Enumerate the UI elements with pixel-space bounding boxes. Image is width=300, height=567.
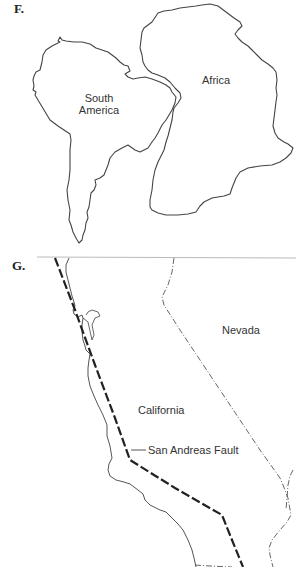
- africa-label: Africa: [202, 74, 230, 86]
- san-andreas-fault-label: San Andreas Fault: [148, 444, 239, 456]
- nevada-label: Nevada: [222, 324, 260, 336]
- panel-g-label: G.: [12, 258, 25, 274]
- panel-divider: [37, 257, 296, 258]
- california-label: California: [138, 404, 184, 416]
- africa-outline: [140, 4, 293, 215]
- south-america-label-line2: America: [78, 104, 120, 116]
- south-america-label-line1: South: [78, 92, 120, 104]
- colorado-river-border: [286, 470, 293, 510]
- south-america-outline: [33, 37, 176, 243]
- map-drawing: [0, 0, 300, 567]
- figure: F. South America Africa G. Nevada Califo…: [0, 0, 300, 567]
- bay-inlet: [83, 310, 100, 340]
- south-america-label: South America: [78, 92, 120, 116]
